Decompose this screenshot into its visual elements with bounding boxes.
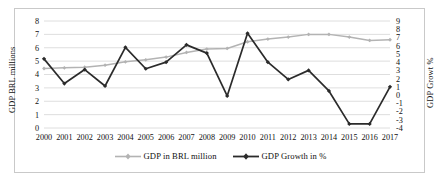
x-tick-label: 2015 — [341, 133, 357, 142]
series-marker — [388, 38, 392, 42]
x-tick-label: 2004 — [117, 133, 133, 142]
right-tick-label: 2 — [396, 75, 400, 84]
x-tick-label: 2000 — [36, 133, 52, 142]
right-tick-label: 3 — [396, 66, 400, 75]
series-marker — [286, 35, 290, 39]
data-series-group — [42, 31, 392, 126]
series-marker — [185, 51, 189, 55]
x-tick-label: 2017 — [382, 133, 398, 142]
right-tick-label: -1 — [396, 99, 403, 108]
series-marker — [103, 63, 107, 67]
right-tick-label: 9 — [396, 17, 400, 26]
legend-marker-icon-gdp-brl — [115, 152, 141, 161]
right-tick-label: 8 — [396, 25, 400, 34]
x-tick-label: 2008 — [199, 133, 215, 142]
left-tick-label: 6 — [35, 44, 39, 53]
x-tick-label: 2016 — [361, 133, 377, 142]
x-tick-label: 2006 — [158, 133, 174, 142]
series-marker — [42, 67, 46, 71]
chart-legend: GDP in BRL million GDP Growth in % — [0, 147, 441, 165]
right-tick-label: -2 — [396, 107, 403, 116]
series-marker — [368, 38, 372, 42]
series-marker — [327, 32, 331, 36]
series-gdp-brl-million — [42, 32, 392, 70]
left-tick-label: 1 — [35, 111, 39, 120]
chart-figure: GDP BRL millions GDP Growt % 012345678 -… — [0, 0, 441, 185]
x-tick-label: 2011 — [260, 133, 276, 142]
series-marker — [307, 32, 311, 36]
legend-label-gdp-growth: GDP Growth in % — [262, 151, 327, 161]
right-tick-label: 5 — [396, 50, 400, 59]
right-tick-label: 0 — [396, 91, 400, 100]
left-tick-label: 4 — [35, 70, 39, 79]
series-marker — [266, 37, 270, 41]
x-tick-label: 2003 — [97, 133, 113, 142]
series-marker — [62, 66, 66, 70]
right-tick-label: 7 — [396, 33, 400, 42]
legend-label-gdp-brl: GDP in BRL million — [144, 151, 217, 161]
right-tick-label: -3 — [396, 116, 403, 125]
series-marker — [124, 60, 128, 64]
series-marker — [225, 47, 229, 51]
series-line — [44, 34, 390, 68]
x-tick-label: 2013 — [300, 133, 316, 142]
x-tick-label: 2001 — [56, 133, 72, 142]
x-tick-label: 2002 — [77, 133, 93, 142]
series-gdp-growth-pct — [42, 31, 392, 126]
left-tick-label: 8 — [35, 17, 39, 26]
right-axis-tick-labels: -4-3-2-10123456789 — [396, 17, 403, 133]
x-tick-label: 2010 — [239, 133, 255, 142]
series-line — [44, 33, 390, 124]
left-tick-label: 3 — [35, 84, 39, 93]
legend-marker-icon-gdp-growth — [233, 152, 259, 161]
x-tick-label: 2012 — [280, 133, 296, 142]
legend-item-gdp-growth: GDP Growth in % — [233, 151, 327, 161]
series-marker — [347, 35, 351, 39]
x-axis-tick-labels: 2000200120022003200420052006200720082009… — [36, 133, 398, 142]
series-marker — [246, 40, 250, 44]
series-marker — [164, 55, 168, 59]
left-tick-label: 7 — [35, 30, 39, 39]
right-tick-label: 6 — [396, 42, 400, 51]
left-tick-label: 2 — [35, 97, 39, 106]
x-tick-label: 2007 — [178, 133, 194, 142]
left-tick-label: 5 — [35, 57, 39, 66]
x-tick-label: 2009 — [219, 133, 235, 142]
x-tick-label: 2005 — [138, 133, 154, 142]
x-tick-label: 2014 — [321, 133, 337, 142]
left-axis-tick-labels: 012345678 — [35, 17, 39, 133]
right-tick-label: 4 — [396, 58, 400, 67]
right-tick-label: 1 — [396, 83, 400, 92]
legend-item-gdp-brl: GDP in BRL million — [115, 151, 217, 161]
